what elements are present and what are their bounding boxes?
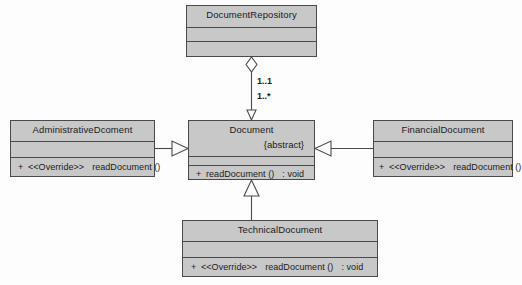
class-stereotype-abstract: {abstract} bbox=[189, 137, 314, 153]
method-visibility: + bbox=[191, 262, 201, 272]
aggregation-connector-repository-document bbox=[246, 57, 257, 120]
method-visibility: + bbox=[379, 162, 389, 172]
method-annotation: <<Override>> bbox=[28, 162, 84, 172]
generalization-connector-financial-document bbox=[315, 141, 373, 156]
method-signature: readDocument () bbox=[206, 169, 274, 179]
methods-compartment-document-repository bbox=[187, 41, 316, 56]
method-row: +readDocument (): void bbox=[189, 166, 314, 182]
methods-compartment-technical-document: +<<Override>>readDocument (): void bbox=[183, 257, 377, 276]
method-annotation: <<Override>> bbox=[389, 162, 445, 172]
method-visibility: + bbox=[196, 169, 206, 179]
attributes-compartment-document bbox=[189, 156, 314, 165]
attributes-compartment-document-repository bbox=[187, 27, 316, 41]
class-name-technical-document: TechnicalDocument bbox=[183, 221, 377, 241]
aggregation-diamond-icon bbox=[246, 57, 257, 72]
class-name-document-repository: DocumentRepository bbox=[187, 6, 316, 27]
method-signature: readDocument () bbox=[453, 162, 521, 172]
aggregation-arrowhead-icon bbox=[247, 110, 256, 120]
method-signature: readDocument () bbox=[92, 162, 160, 172]
method-return-type: : void bbox=[282, 169, 304, 179]
method-visibility: + bbox=[18, 162, 28, 172]
attributes-compartment-financial-document bbox=[374, 141, 512, 157]
generalization-triangle-bottom-icon bbox=[244, 180, 259, 196]
methods-compartment-financial-document: +<<Override>>readDocument () bbox=[374, 157, 512, 176]
class-name-document: Document bbox=[189, 121, 314, 137]
methods-compartment-administrative-document: +<<Override>>readDocument () bbox=[11, 157, 154, 176]
class-name-administrative-document: AdministrativeDcoment bbox=[11, 121, 154, 141]
generalization-triangle-left-icon bbox=[172, 141, 188, 156]
generalization-connector-administrative-document bbox=[155, 141, 188, 156]
method-return-type: : void bbox=[341, 262, 363, 272]
class-box-administrative-document[interactable]: AdministrativeDcoment +<<Override>>readD… bbox=[10, 120, 155, 177]
method-row: +<<Override>>readDocument () bbox=[374, 158, 512, 175]
attributes-compartment-administrative-document bbox=[11, 141, 154, 157]
class-header-document: Document {abstract} bbox=[189, 121, 314, 156]
class-box-financial-document[interactable]: FinancialDocument +<<Override>>readDocum… bbox=[373, 120, 513, 177]
methods-compartment-document: +readDocument (): void bbox=[189, 165, 314, 180]
method-signature: readDocument () bbox=[265, 262, 333, 272]
method-row: +<<Override>>readDocument (): void bbox=[183, 258, 377, 275]
class-box-document[interactable]: Document {abstract} +readDocument (): vo… bbox=[188, 120, 315, 180]
generalization-triangle-right-icon bbox=[315, 141, 331, 156]
class-box-document-repository[interactable]: DocumentRepository bbox=[186, 5, 317, 57]
uml-class-diagram: 1..1 1..* DocumentRepository Document {a… bbox=[0, 0, 522, 285]
generalization-connector-technical-document bbox=[244, 180, 259, 220]
multiplicity-label-source: 1..1 bbox=[257, 76, 272, 86]
multiplicity-label-target: 1..* bbox=[257, 91, 271, 101]
method-annotation: <<Override>> bbox=[201, 262, 257, 272]
method-row: +<<Override>>readDocument () bbox=[11, 158, 154, 175]
attributes-compartment-technical-document bbox=[183, 241, 377, 257]
class-name-financial-document: FinancialDocument bbox=[374, 121, 512, 141]
class-box-technical-document[interactable]: TechnicalDocument +<<Override>>readDocum… bbox=[182, 220, 378, 277]
